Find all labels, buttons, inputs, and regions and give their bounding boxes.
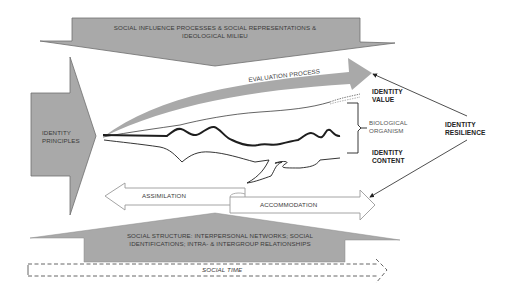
identity-content-label: IDENTITY CONTENT <box>372 149 405 165</box>
social-structure-label: SOCIAL STRUCTURE: INTERPERSONAL NETWORKS… <box>110 232 330 248</box>
accommodation-label: ACCOMMODATION <box>260 201 317 209</box>
identity-value-label: IDENTITY VALUE <box>372 88 403 104</box>
biological-organism-label: BIOLOGICAL ORGANISM <box>369 119 407 135</box>
diagram-canvas <box>0 0 505 298</box>
identity-resilience-label: IDENTITY RESILIENCE <box>445 121 486 137</box>
social-time-label: SOCIAL TIME <box>202 266 242 274</box>
identity-principles-label: IDENTITY PRINCIPLES <box>42 129 80 145</box>
evaluation-process-arrow <box>103 58 372 137</box>
social-influence-label: SOCIAL INFLUENCE PROCESSES & SOCIAL REPR… <box>100 24 330 40</box>
right-bracket <box>347 103 361 153</box>
biological-organism-line <box>103 127 340 146</box>
identity-content-line <box>104 140 340 183</box>
assimilation-label: ASSIMILATION <box>142 192 186 200</box>
